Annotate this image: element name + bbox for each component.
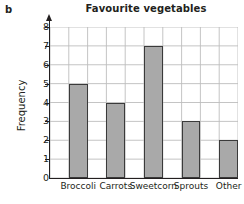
figure-panel: b Favourite vegetables Frequency 8765432…: [0, 0, 244, 204]
bar: [106, 103, 125, 179]
chart-title: Favourite vegetables: [48, 3, 244, 15]
y-axis-arrow-icon: [46, 14, 52, 21]
y-axis-tick-label: 7: [7, 41, 49, 51]
y-axis-tick-label: 0: [7, 173, 49, 183]
y-axis-tick-label: 8: [7, 22, 49, 32]
y-axis-tick-label: 1: [7, 154, 49, 164]
bar: [144, 46, 163, 178]
bars-layer: [50, 27, 238, 178]
x-axis-tick-label: Other: [199, 181, 244, 192]
y-axis-tick-label: 3: [7, 116, 49, 126]
y-axis-tick-label: 5: [7, 79, 49, 89]
plot-area: [50, 27, 238, 178]
bar: [69, 84, 88, 178]
y-axis-tick-group: 876543210: [0, 0, 49, 204]
y-axis-tick-label: 2: [7, 135, 49, 145]
y-axis-tick-label: 4: [7, 98, 49, 108]
bar: [219, 140, 238, 178]
y-axis-tick-label: 6: [7, 60, 49, 70]
x-axis-label-group: BroccoliCarrotsSweetcornSproutsOther: [50, 181, 240, 201]
bar: [182, 121, 201, 178]
x-axis-line: [49, 178, 238, 179]
y-axis-line: [49, 20, 50, 179]
